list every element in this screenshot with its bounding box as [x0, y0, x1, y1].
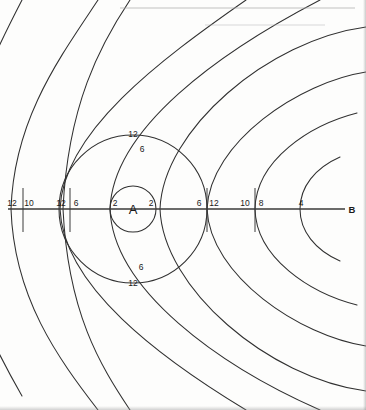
axis-label-3: 6	[74, 198, 79, 208]
source-label-a: A	[129, 202, 138, 217]
source-label-b: B	[349, 204, 356, 215]
vertical-label-bottom-inner: 6	[139, 262, 144, 272]
vertical-label-top-outer: 12	[128, 129, 138, 139]
axis-label-8: 10	[240, 198, 250, 208]
axis-label-9: 8	[259, 198, 264, 208]
axis-label-10: 4	[299, 198, 304, 208]
axis-label-1: 10	[24, 198, 34, 208]
axis-tick-marks	[23, 188, 255, 232]
axis-label-5: 2	[149, 198, 154, 208]
diagram-canvas: 12 10 12 6 2 2 6 12 10 8 4 12 6 6 12 A B	[0, 0, 366, 410]
axis-label-7: 12	[209, 198, 219, 208]
axis-label-6: 6	[197, 198, 202, 208]
axis-label-4: 2	[113, 198, 118, 208]
vertical-label-top-inner: 6	[140, 144, 145, 154]
wave-interference-figure: 12 10 12 6 2 2 6 12 10 8 4 12 6 6 12 A B	[0, 0, 366, 410]
axis-label-2: 12	[56, 198, 66, 208]
axis-label-0: 12	[7, 198, 17, 208]
vertical-label-bottom-outer: 12	[128, 278, 138, 288]
